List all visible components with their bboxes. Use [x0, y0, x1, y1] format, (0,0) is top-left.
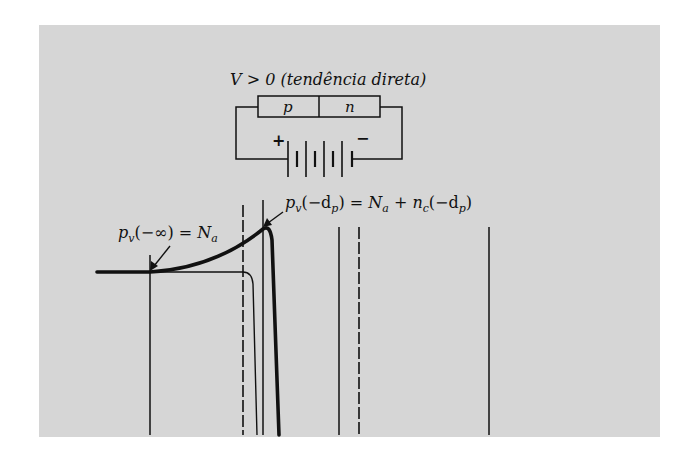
annotation-arrow-right	[263, 212, 283, 227]
battery-plus-label: +	[272, 131, 285, 150]
hole-density-curve	[97, 228, 279, 435]
annotation-arrow-left	[150, 246, 170, 271]
n-region-label: n	[345, 98, 355, 116]
battery-minus-label: −	[356, 129, 369, 148]
pn-junction-diagram: V > 0 (tendência direta) p n + −	[0, 0, 684, 466]
pn-junction-block: p n	[258, 96, 380, 117]
annotation-pv-minus-dp: pv(−dp) = Na + nc(−dp)	[285, 193, 472, 215]
annotation-pv-minus-infinity: pv(−∞) = Na	[118, 223, 218, 245]
p-region-label: p	[283, 98, 293, 116]
battery-icon	[288, 141, 352, 177]
circuit-title: V > 0 (tendência direta)	[230, 70, 426, 89]
thin-density-curve	[150, 272, 257, 435]
